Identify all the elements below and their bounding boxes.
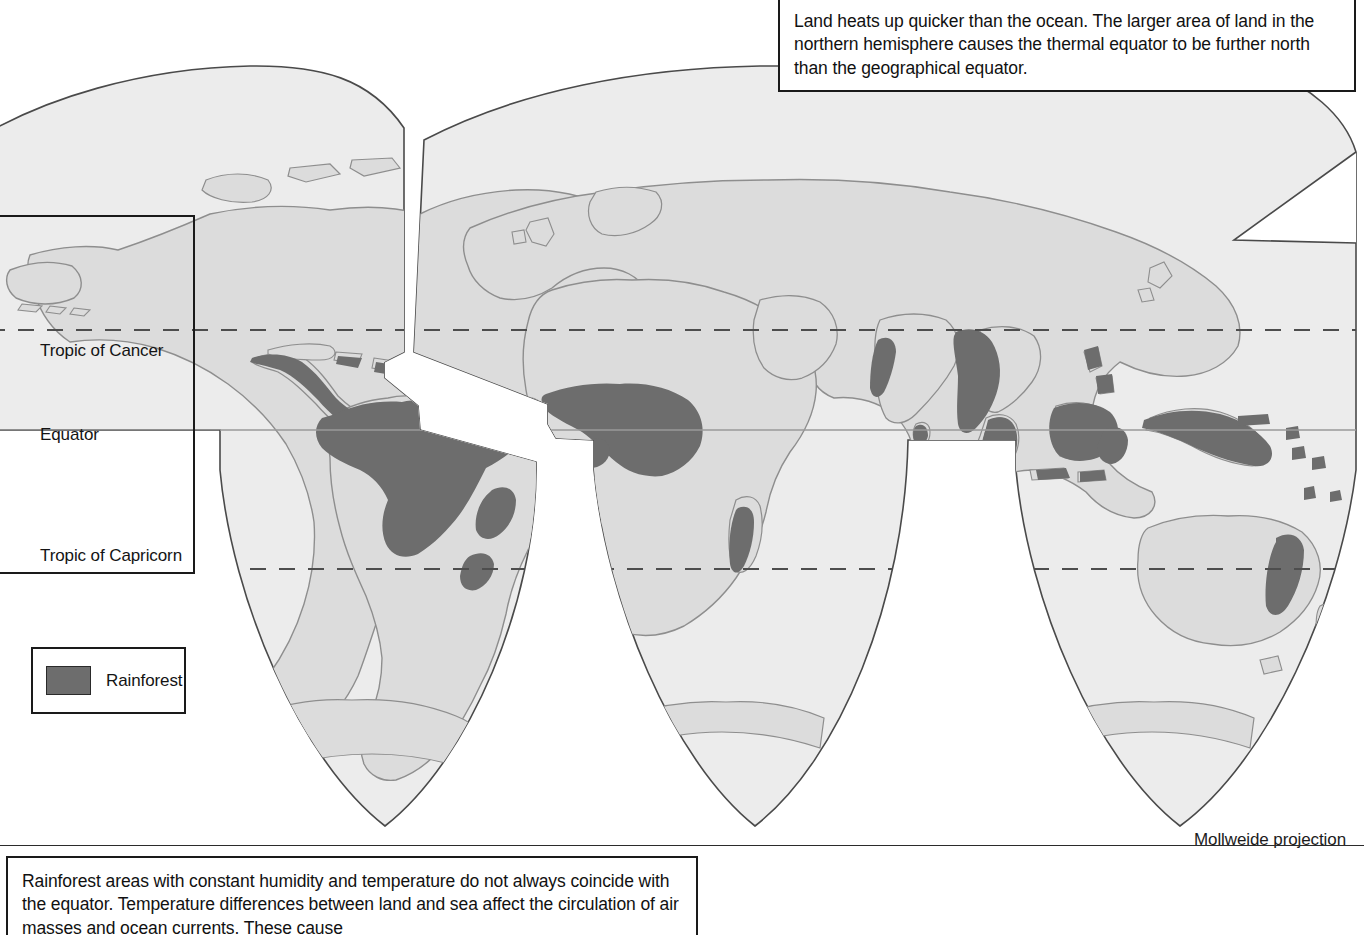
thermal-equator-callout: Land heats up quicker than the ocean. Th… xyxy=(778,0,1356,92)
rainforest-sri-lanka xyxy=(913,425,928,446)
equator-label: Equator xyxy=(40,425,99,445)
page-divider-rule xyxy=(0,845,1364,846)
rainforest-legend-swatch xyxy=(46,666,91,695)
thermal-equator-callout-text: Land heats up quicker than the ocean. Th… xyxy=(794,11,1314,78)
map-page: Tropic of Cancer Equator Tropic of Capri… xyxy=(0,0,1364,935)
latitude-label-box xyxy=(0,215,195,574)
world-map xyxy=(0,0,1364,935)
tropic-of-capricorn-label: Tropic of Capricorn xyxy=(40,546,182,566)
rainforest-callout: Rainforest areas with constant humidity … xyxy=(6,856,698,935)
map-legend: Rainforest xyxy=(31,647,186,714)
rainforest-callout-text: Rainforest areas with constant humidity … xyxy=(22,871,679,935)
projection-label: Mollweide projection xyxy=(1194,830,1346,850)
rainforest-legend-label: Rainforest xyxy=(106,671,182,691)
tropic-of-cancer-label: Tropic of Cancer xyxy=(40,341,163,361)
